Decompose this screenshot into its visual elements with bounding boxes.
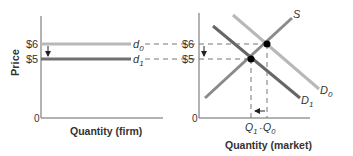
market-x-axis-title: Quantity (market) xyxy=(225,139,312,151)
market-price-6-label: $6 xyxy=(182,38,194,50)
firm-price-6-label: $6 xyxy=(26,38,38,50)
market-panel: $6 $5 0 S D0 D1 Q1 ← Q0 Quantity (market… xyxy=(182,8,333,151)
firm-panel: $6 $5 0 Price Quantity (firm) d0 d1 xyxy=(9,16,196,137)
equilibrium-point-0 xyxy=(264,41,271,48)
firm-y-axis-title: Price xyxy=(9,49,21,76)
firm-price-5-label: $5 xyxy=(26,53,38,65)
firm-origin-label: 0 xyxy=(34,113,40,124)
market-price-5-label: $5 xyxy=(182,53,194,65)
firm-x-axis-title: Quantity (firm) xyxy=(70,125,142,137)
diagram-canvas: $6 $5 0 Price Quantity (firm) d0 d1 $6 $… xyxy=(0,0,353,156)
q1-label: Q1 xyxy=(245,121,257,136)
demand-d1-label: D1 xyxy=(301,94,313,109)
supply-label: S xyxy=(293,8,301,20)
d1-label: d1 xyxy=(133,53,144,68)
equilibrium-point-1 xyxy=(248,56,255,63)
market-origin-label: 0 xyxy=(192,113,198,124)
q0-label: Q0 xyxy=(263,121,276,136)
demand-d0-label: D0 xyxy=(320,84,333,99)
d0-label: d0 xyxy=(133,38,144,53)
